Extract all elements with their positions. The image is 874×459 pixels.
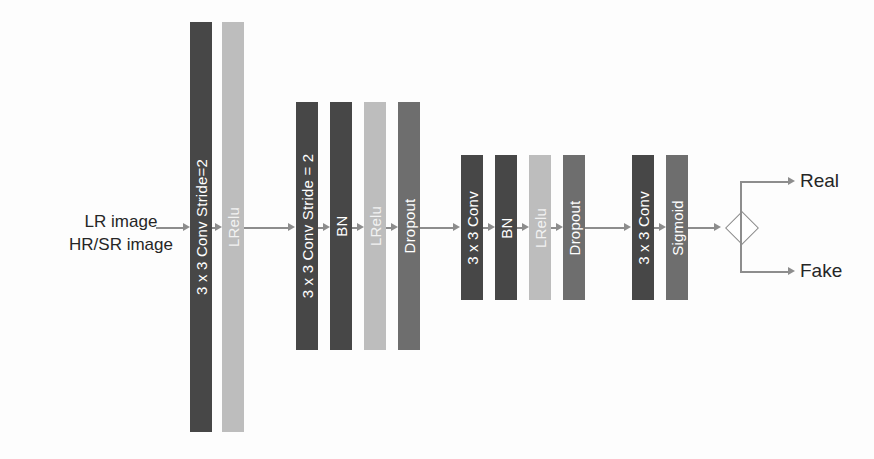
- connector-group2-to-group3: [420, 227, 453, 229]
- connector-decision-to-real: [740, 181, 790, 183]
- arrowhead-decision-to-real: [788, 177, 795, 185]
- arrowhead-g3-bn-to-lrelu: [522, 223, 529, 231]
- output-label-fake: Fake: [800, 260, 842, 282]
- layer-label-g4-conv: 3 x 3 Conv: [635, 191, 652, 265]
- output-label-real: Real: [800, 170, 839, 192]
- arrowhead-decision-to-fake: [788, 267, 795, 275]
- layer-label-g2-dropout: Dropout: [401, 199, 418, 254]
- layer-label-g3-dropout: Dropout: [566, 200, 583, 255]
- layer-label-g1-conv: 3 x 3 Conv Stride=2: [193, 159, 210, 295]
- arrowhead-g1-conv-to-lrelu: [215, 223, 222, 231]
- layer-bar-g3-dropout: Dropout: [563, 155, 585, 300]
- arrowhead-group1-to-group2: [288, 223, 295, 231]
- layer-label-g3-lrelu: LRelu: [532, 207, 549, 247]
- input-label-line2: HR/SR image: [48, 233, 194, 256]
- layer-bar-g1-conv: 3 x 3 Conv Stride=2: [190, 22, 212, 432]
- layer-label-g1-lrelu: LRelu: [225, 207, 242, 247]
- connector-decision-down: [740, 227, 742, 272]
- arrowhead-group3-to-group4: [624, 223, 631, 231]
- layer-label-g3-bn: BN: [498, 217, 515, 238]
- layer-bar-g2-lrelu: LRelu: [364, 102, 386, 350]
- real-fake-decision-diamond: [725, 211, 759, 245]
- connector-group4-to-decision: [688, 227, 716, 229]
- layer-bar-g3-lrelu: LRelu: [529, 155, 551, 300]
- connector-input-to-group1: [156, 227, 184, 229]
- layer-label-g2-lrelu: LRelu: [367, 206, 384, 246]
- arrowhead-group2-to-group3: [453, 223, 460, 231]
- layer-label-g4-sigmoid: Sigmoid: [669, 200, 686, 256]
- layer-bar-g2-conv: 3 x 3 Conv Stride = 2: [296, 102, 318, 350]
- layer-label-g3-conv: 3 x 3 Conv: [464, 191, 481, 265]
- arrowhead-g2-lrelu-to-dropout: [391, 223, 398, 231]
- input-label: LR image HR/SR image: [48, 210, 194, 256]
- layer-bar-g2-dropout: Dropout: [398, 102, 420, 350]
- layer-bar-g4-sigmoid: Sigmoid: [666, 155, 688, 300]
- arrowhead-g2-bn-to-lrelu: [357, 223, 364, 231]
- arrowhead-g2-conv-to-bn: [323, 223, 330, 231]
- connector-decision-up: [740, 182, 742, 228]
- layer-bar-g3-bn: BN: [495, 155, 517, 300]
- arrowhead-g4-conv-to-sigmoid: [659, 223, 666, 231]
- arrowhead-g3-conv-to-bn: [488, 223, 495, 231]
- arrowhead-input-to-group1: [183, 223, 190, 231]
- layer-bar-g4-conv: 3 x 3 Conv: [632, 155, 654, 300]
- network-architecture-diagram: LR image HR/SR image 3 x 3 Co: [0, 0, 874, 459]
- layer-bar-g3-conv: 3 x 3 Conv: [461, 155, 483, 300]
- layer-label-g2-bn: BN: [333, 215, 350, 236]
- input-label-line1: LR image: [48, 210, 194, 233]
- layer-bar-g1-lrelu: LRelu: [222, 22, 244, 432]
- connector-group1-to-group2: [244, 227, 288, 229]
- connector-group3-to-group4: [585, 227, 624, 229]
- arrowhead-g3-lrelu-to-dropout: [556, 223, 563, 231]
- connector-decision-to-fake: [740, 271, 790, 273]
- layer-bar-g2-bn: BN: [330, 102, 352, 350]
- arrowhead-group4-to-decision: [714, 223, 721, 231]
- layer-label-g2-conv: 3 x 3 Conv Stride = 2: [299, 154, 316, 299]
